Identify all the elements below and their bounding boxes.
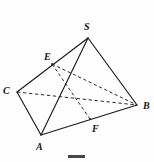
tetrahedron-geometry-canvas xyxy=(0,0,154,162)
edge-S-B xyxy=(88,38,137,105)
edge-A-B xyxy=(41,105,137,135)
vertex-dot-F xyxy=(89,118,91,120)
edge-C-B-hidden xyxy=(17,92,137,105)
vertex-dot-E xyxy=(51,63,53,65)
vertex-label-E: E xyxy=(44,52,51,62)
edge-C-A xyxy=(17,92,41,135)
vertex-label-F: F xyxy=(92,124,99,134)
vertex-ticks-group xyxy=(51,63,91,120)
vertex-label-C: C xyxy=(3,86,10,96)
caption-rule xyxy=(68,155,85,158)
edge-E-B-hidden xyxy=(52,64,137,105)
caption-strip xyxy=(0,150,154,162)
vertex-label-B: B xyxy=(143,101,150,111)
figure-container: S C B A E F xyxy=(0,0,154,162)
solid-edges-group xyxy=(17,38,137,135)
vertex-label-S: S xyxy=(84,22,90,32)
